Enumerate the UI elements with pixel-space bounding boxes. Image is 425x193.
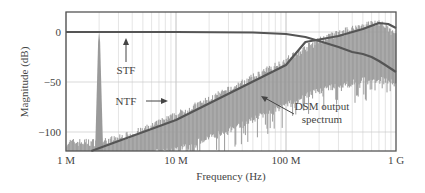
- magnitude-frequency-chart: 0−50−100 1 M10 M100 M1 G Frequency (Hz) …: [0, 0, 425, 193]
- x-tick-label: 1 G: [388, 154, 404, 166]
- x-axis-label: Frequency (Hz): [196, 170, 266, 183]
- x-axis-ticks: 1 M10 M100 M1 G: [57, 154, 404, 166]
- ntf-label: NTF: [116, 95, 137, 107]
- x-tick-label: 1 M: [57, 154, 75, 166]
- y-tick-label: −50: [44, 76, 62, 88]
- y-tick-label: −100: [38, 126, 61, 138]
- y-tick-label: 0: [56, 26, 62, 38]
- dsm-output-spectrum: [67, 20, 396, 151]
- y-axis-ticks: 0−50−100: [38, 26, 61, 138]
- signal-tone: [95, 32, 103, 151]
- dsm-label-line1: DSM output: [295, 100, 350, 112]
- x-tick-label: 10 M: [164, 154, 188, 166]
- ntf-annotation: NTF: [116, 95, 168, 107]
- spectrum-noise: [67, 20, 396, 151]
- ntf-arrowhead-icon: [161, 98, 168, 104]
- y-axis-label: Magnitude (dB): [18, 46, 31, 117]
- stf-label: STF: [117, 64, 136, 76]
- stf-annotation: STF: [117, 38, 136, 76]
- x-tick-label: 100 M: [271, 154, 300, 166]
- dsm-label-line2: spectrum: [302, 113, 343, 125]
- stf-arrowhead-icon: [123, 38, 129, 45]
